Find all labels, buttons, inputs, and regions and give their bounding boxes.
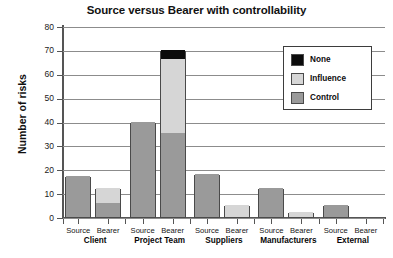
bar-manufacturers-source (258, 189, 284, 218)
x-group-boundary-tick (190, 219, 191, 224)
x-group-boundary-tick (319, 219, 320, 224)
x-group-boundary-tick (383, 219, 384, 224)
segment-control (96, 203, 120, 217)
gridline (63, 123, 385, 124)
y-tick-label: 30 (24, 142, 54, 151)
y-tick-mark (57, 51, 62, 52)
y-tick-label: 20 (24, 166, 54, 175)
x-group-label-external: External (311, 236, 393, 245)
x-tick-mark (271, 219, 272, 224)
chart-title: Source versus Bearer with controllabilit… (0, 4, 393, 16)
legend-swatch-none-icon (291, 54, 304, 66)
x-tick-mark (366, 219, 367, 224)
segment-control (161, 133, 185, 217)
y-tick-mark (57, 194, 62, 195)
y-tick-mark (57, 146, 62, 147)
segment-influence (289, 212, 313, 217)
x-tick-mark (237, 219, 238, 224)
legend-label: Influence (310, 74, 346, 83)
segment-control (66, 176, 90, 217)
bar-manufacturers-bearer (288, 213, 314, 218)
segment-influence (96, 188, 120, 202)
chart-container: Source versus Bearer with controllabilit… (0, 0, 393, 258)
segment-control (131, 122, 155, 218)
y-tick-mark (57, 99, 62, 100)
y-tick-label: 0 (24, 214, 54, 223)
y-tick-label: 80 (24, 23, 54, 32)
x-role-label-bearer: Bearer (346, 226, 386, 235)
legend-label: None (310, 55, 330, 64)
bar-suppliers-source (194, 175, 220, 218)
y-tick-label: 40 (24, 118, 54, 127)
segment-influence (225, 205, 249, 217)
x-group-boundary-tick (254, 219, 255, 224)
y-tick-mark (57, 27, 62, 28)
x-group-boundary-tick (125, 219, 126, 224)
x-tick-mark (173, 219, 174, 224)
legend-swatch-influence-icon (291, 73, 304, 85)
y-tick-label: 10 (24, 190, 54, 199)
y-tick-label: 70 (24, 46, 54, 55)
x-tick-mark (78, 219, 79, 224)
y-tick-mark (57, 123, 62, 124)
bar-external-source (323, 206, 349, 218)
gridline (63, 146, 385, 147)
segment-control (259, 188, 283, 217)
x-tick-mark (207, 219, 208, 224)
x-tick-mark (143, 219, 144, 224)
segment-influence (161, 59, 185, 133)
segment-control (195, 174, 219, 217)
legend-swatch-control-icon (291, 92, 304, 104)
x-tick-mark (108, 219, 109, 224)
segment-control (324, 205, 348, 217)
bar-suppliers-bearer (224, 206, 250, 218)
y-tick-mark (57, 75, 62, 76)
legend-label: Control (310, 93, 339, 102)
y-tick-mark (57, 170, 62, 171)
x-origin-tick (63, 219, 64, 224)
x-tick-mark (301, 219, 302, 224)
y-tick-mark (57, 218, 62, 219)
x-tick-mark (336, 219, 337, 224)
bar-client-source (65, 177, 91, 218)
y-tick-label: 50 (24, 94, 54, 103)
chart-legend: NoneInfluenceControl (283, 46, 372, 110)
segment-none (161, 50, 185, 60)
bar-project-team-bearer (160, 51, 186, 218)
gridline (63, 27, 385, 28)
gridline (63, 170, 385, 171)
y-tick-label: 60 (24, 70, 54, 79)
bar-client-bearer (95, 189, 121, 218)
bar-project-team-source (130, 123, 156, 219)
